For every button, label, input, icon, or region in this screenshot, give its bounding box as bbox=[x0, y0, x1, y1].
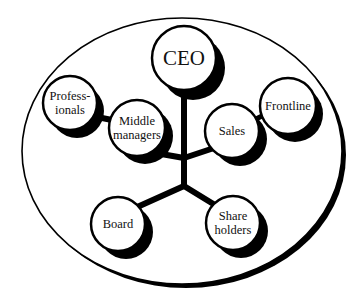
node-label: Profess- bbox=[50, 89, 91, 103]
node-label: managers bbox=[113, 128, 161, 142]
node-label: Middle bbox=[119, 114, 156, 128]
node-label: Share bbox=[219, 209, 248, 223]
node-label: ionals bbox=[55, 103, 85, 117]
node-label: CEO bbox=[163, 46, 205, 70]
node-label: Sales bbox=[219, 124, 246, 138]
stakeholder-diagram: Profess- ionals Frontline CEO Middle man… bbox=[0, 0, 360, 300]
node-label: Frontline bbox=[265, 99, 311, 113]
node-label: Board bbox=[103, 217, 134, 231]
node-label: holders bbox=[215, 223, 252, 237]
